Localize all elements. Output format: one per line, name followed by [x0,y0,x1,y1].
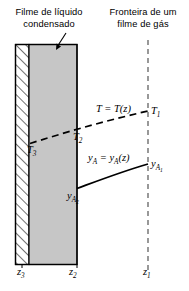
label-yfunc-tail: (z) [118,152,129,163]
axis-label-z1: z1 [143,266,151,280]
label-T1-subscript: 1 [157,111,161,119]
caption-gas-film: Fronteira de um filme de gás [100,7,186,30]
label-T1: T1 [151,105,160,119]
axis-label-z2: z2 [69,266,77,280]
label-mole-fraction-function: yA = yA(z) [88,152,130,166]
diagram-canvas: Filme de líquido condensado Fronteira de… [0,0,189,291]
axis-label-z3-sub: 3 [21,272,25,280]
label-yA2-sub-2: 2 [76,200,79,206]
label-yA2-sub: A2 [72,196,79,204]
label-temperature-function: T = T(z) [96,103,131,114]
label-yA1-sub: A1 [156,164,163,172]
label-yfunc-eq: = y [97,152,114,163]
label-T2-subscript: 2 [79,137,83,145]
mole-fraction-profile-curve [77,164,148,189]
caption-liquid-film: Filme de líquido condensado [6,7,92,30]
label-yA1: yA1 [151,158,163,174]
label-yA1-sub-1: 1 [160,168,163,174]
label-yA2: yA2 [67,190,79,206]
axis-label-z3: z3 [17,266,25,280]
axis-label-z1-sub: 1 [147,272,151,280]
label-T2: T2 [73,131,82,145]
label-T3-subscript: 3 [33,150,37,158]
axis-label-z2-sub: 2 [73,272,77,280]
label-T3: T3 [27,144,36,158]
